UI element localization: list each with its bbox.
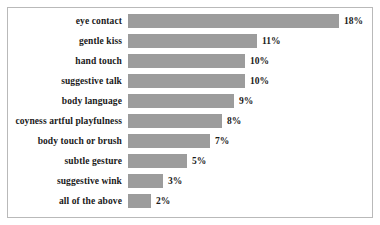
bar-row: body touch or brush7% [8, 134, 372, 148]
bar-value-label: 5% [192, 154, 206, 168]
bar-value-label: 2% [156, 194, 170, 208]
category-label: coyness artful playfulness [8, 114, 122, 128]
bar-row: suggestive wink3% [8, 174, 372, 188]
bar-track: 3% [128, 174, 372, 188]
bar-value-label: 11% [262, 34, 280, 48]
bar-row: body language9% [8, 94, 372, 108]
category-label: suggestive talk [8, 74, 122, 88]
category-label: gentle kiss [8, 34, 122, 48]
bar-chart-figure: eye contact18%gentle kiss11%hand touch10… [0, 0, 380, 225]
bar [128, 154, 187, 168]
bar-value-label: 10% [250, 54, 269, 68]
bar-row: suggestive talk10% [8, 74, 372, 88]
bar-track: 10% [128, 54, 372, 68]
bar-row: subtle gesture5% [8, 154, 372, 168]
bar [128, 34, 257, 48]
bar-track: 5% [128, 154, 372, 168]
category-label: all of the above [8, 194, 122, 208]
bar-value-label: 3% [168, 174, 182, 188]
bar-value-label: 7% [215, 134, 229, 148]
category-label: suggestive wink [8, 174, 122, 188]
category-label: hand touch [8, 54, 122, 68]
bar-track: 8% [128, 114, 372, 128]
category-label: body touch or brush [8, 134, 122, 148]
bar-track: 7% [128, 134, 372, 148]
bar-value-label: 10% [250, 74, 269, 88]
bar [128, 194, 151, 208]
bar [128, 54, 245, 68]
bar-value-label: 8% [227, 114, 241, 128]
bar-track: 18% [128, 14, 372, 28]
bar [128, 14, 339, 28]
bar-value-label: 18% [344, 14, 363, 28]
bar [128, 114, 222, 128]
bar-track: 2% [128, 194, 372, 208]
plot-area: eye contact18%gentle kiss11%hand touch10… [8, 8, 372, 217]
bar-track: 10% [128, 74, 372, 88]
bar-value-label: 9% [239, 94, 253, 108]
bar-row: eye contact18% [8, 14, 372, 28]
bar [128, 134, 210, 148]
bar [128, 94, 234, 108]
bar-row: hand touch10% [8, 54, 372, 68]
category-label: eye contact [8, 14, 122, 28]
chart-frame-border: eye contact18%gentle kiss11%hand touch10… [7, 7, 373, 218]
bar [128, 174, 163, 188]
bar-row: gentle kiss11% [8, 34, 372, 48]
category-label: body language [8, 94, 122, 108]
bar [128, 74, 245, 88]
bar-track: 11% [128, 34, 372, 48]
category-label: subtle gesture [8, 154, 122, 168]
bar-track: 9% [128, 94, 372, 108]
bar-row: all of the above2% [8, 194, 372, 208]
bar-row: coyness artful playfulness8% [8, 114, 372, 128]
